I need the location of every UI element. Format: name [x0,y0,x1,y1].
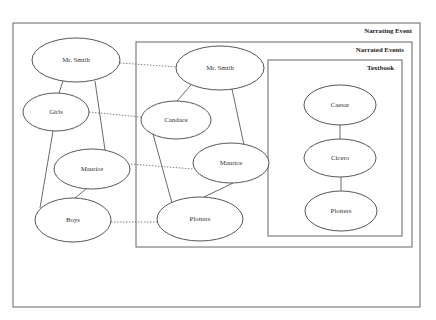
node-label: Maurice [81,165,104,172]
frame-label: Narrated Events [356,46,404,53]
nodes-layer: Mr. SmithGirlsMauriceBoysMr. SmithCandac… [23,38,377,242]
correspondence-n_maurice_1-n_maurice_2 [131,164,193,169]
node-n_caesar: Caesar [304,85,376,125]
node-label: Cicero [331,154,350,161]
node-n_smith_1: Mr. Smith [32,38,120,82]
node-label: Maurice [220,159,243,166]
node-label: Mr. Smith [206,64,234,71]
edge-n_smith_1-n_girls [59,81,63,93]
node-n_smith_2: Mr. Smith [176,46,264,90]
narrative-diagram: Narrating EventNarrated EventsTextbook M… [0,0,436,320]
node-n_plotters_3: Plotters [305,191,377,231]
node-n_girls: Girls [23,93,89,131]
edge-n_girls-n_boys [40,131,53,208]
frame-label: Narrating Event [364,27,412,34]
frame-label: Textbook [367,64,394,71]
edge-n_smith_1-n_maurice_1 [95,81,105,150]
node-label: Caesar [331,101,350,108]
node-label: Plotters [190,215,211,222]
node-label: Boys [66,216,80,223]
node-n_plotters_2: Plotters [157,197,243,241]
edge-n_maurice_1-n_boys [75,189,86,198]
node-n_boys: Boys [35,198,111,242]
correspondence-n_smith_1-n_smith_2 [120,63,177,67]
edge-n_candace-n_plotters_2 [153,134,172,203]
node-label: Plotters [331,207,352,214]
node-n_maurice_2: Maurice [193,143,269,183]
node-label: Candace [164,116,187,123]
node-label: Mr. Smith [62,56,90,63]
node-n_candace: Candace [141,101,211,139]
edge-n_maurice_2-n_plotters_2 [204,183,233,197]
edge-n_smith_2-n_maurice_2 [232,89,244,145]
correspondence-links-layer [89,63,193,222]
edge-n_smith_2-n_candace [177,85,191,101]
node-n_maurice_1: Maurice [54,149,130,189]
correspondence-n_girls-n_candace [89,112,141,117]
node-n_cicero: Cicero [304,139,376,177]
node-label: Girls [49,108,63,115]
